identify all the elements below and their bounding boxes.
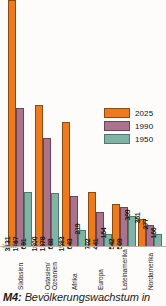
category-label-5: Nordamerika [147,250,154,290]
bar-group: 31311767691 [8,0,32,247]
category-label-2: Afrika [71,250,78,290]
bar-value-label: 399 [124,209,132,220]
figure-caption: M4: Bevölkerungswachstum in [3,291,166,303]
bar-value-label: 166 [150,227,158,238]
category-label-0: Südasien [17,250,24,290]
bar-value-label: 164 [100,227,108,238]
category-label-1: Ostasien/ Ozeanien [44,250,58,290]
legend-label: 2025 [135,109,153,118]
bar-1990-2: 643 [70,196,78,247]
bar-value-label: 277 [142,218,150,229]
bar-2025-1: 1800 [35,105,43,247]
legend-swatch-icon [104,108,130,118]
bar-group: 18001378688 [35,0,59,247]
legend-swatch-icon [104,121,130,131]
figure-code: M4: [3,291,22,303]
bar-1990-1: 1378 [43,138,51,247]
legend-item-1950: 1950 [104,134,153,144]
bar-group: 1583643219 [62,0,86,247]
legend-swatch-icon [104,134,130,144]
legend-label: 1990 [135,122,153,131]
figure-caption-text: Bevölkerungswachstum in [25,291,150,303]
category-labels: SüdasienOstasien/ OzeanienAfrikaEuropaLa… [0,247,166,292]
category-label-4: Lateinamerika [121,250,128,290]
bar-1990-0: 1767 [16,108,24,247]
category-label-3: Europa [97,250,104,290]
legend-item-1990: 1990 [104,121,153,131]
bar-2025-2: 1583 [62,122,70,247]
legend-item-2025: 2025 [104,108,153,118]
chart-figure: 3131176769118001378688158364321970244116… [0,0,166,306]
legend-label: 1950 [135,135,153,144]
bar-2025-0: 3131 [8,0,16,247]
chart-legend: 202519901950 [104,108,153,144]
bar-value-label: 219 [74,223,82,234]
bar-value-label: 361 [134,212,142,223]
